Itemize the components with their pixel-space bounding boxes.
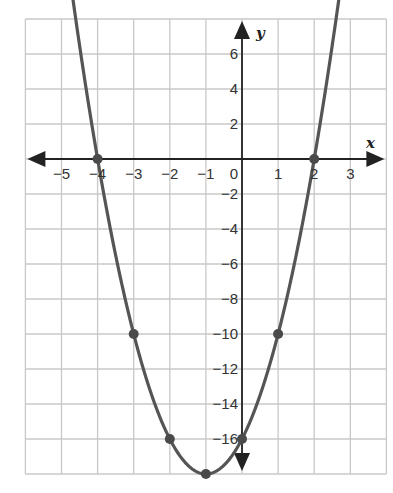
x-tick-label: 3 bbox=[346, 165, 354, 182]
y-tick-label: 6 bbox=[230, 45, 238, 62]
data-point bbox=[129, 329, 139, 339]
y-tick-label: 4 bbox=[230, 80, 238, 97]
x-tick-label: 2 bbox=[310, 165, 318, 182]
y-tick-label: −10 bbox=[213, 325, 238, 342]
y-axis-up-arrow bbox=[234, 21, 250, 39]
x-tick-label: 0 bbox=[230, 165, 238, 182]
y-tick-label: −12 bbox=[213, 360, 238, 377]
y-axis-down-arrow bbox=[234, 453, 250, 471]
x-tick-label: −2 bbox=[161, 165, 178, 182]
data-point bbox=[201, 469, 211, 479]
y-tick-label: 2 bbox=[230, 115, 238, 132]
x-tick-label: −5 bbox=[53, 165, 70, 182]
x-axis-left-arrow bbox=[27, 151, 45, 167]
data-point bbox=[165, 434, 175, 444]
y-tick-label: −8 bbox=[221, 290, 238, 307]
x-axis-label: x bbox=[365, 134, 376, 152]
y-tick-label: −16 bbox=[213, 430, 238, 447]
data-point bbox=[309, 154, 319, 164]
data-point bbox=[93, 154, 103, 164]
parabola-chart: −5−4−3−2−10123642−2−4−6−8−10−12−14−16 x … bbox=[0, 0, 393, 493]
axis-labels: x y bbox=[255, 24, 376, 152]
x-tick-label: −1 bbox=[197, 165, 214, 182]
data-point bbox=[273, 329, 283, 339]
x-axis-right-arrow bbox=[366, 151, 384, 167]
x-tick-label: −4 bbox=[89, 165, 106, 182]
x-tick-label: 1 bbox=[274, 165, 282, 182]
y-tick-label: −6 bbox=[221, 255, 238, 272]
y-tick-label: −2 bbox=[221, 185, 238, 202]
data-point bbox=[237, 434, 247, 444]
grid-lines bbox=[25, 19, 386, 474]
y-axis-label: y bbox=[255, 24, 266, 42]
y-tick-label: −4 bbox=[221, 220, 238, 237]
y-tick-label: −14 bbox=[213, 395, 238, 412]
x-tick-label: −3 bbox=[125, 165, 142, 182]
